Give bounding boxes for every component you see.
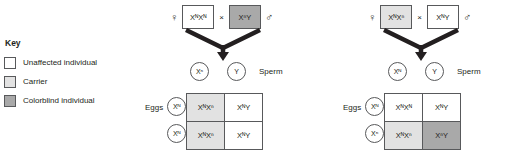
swatch-unaffected-icon: [4, 57, 16, 69]
cross-connector-arrow-icon: [174, 28, 284, 62]
offspring-cell: XᴺXⁿ: [187, 94, 225, 122]
cross-diagram-1: ♀ XᴺXᴺ × XⁿY ♂ Xⁿ Y Sperm Eggs Xᴺ Xᴺ XᴺX…: [140, 0, 320, 159]
key-item-label: Colorblind individual: [23, 96, 95, 105]
punnett-grid: XᴺXᴺ XᴺY XᴺXⁿ XⁿY: [384, 93, 461, 150]
table-row: XᴺXⁿ XᴺY: [187, 122, 263, 150]
sperm-gametes: Xⁿ Y Sperm: [190, 62, 283, 81]
father-genotype-box: XⁿY: [229, 5, 261, 29]
father-genotype-box: XᴺY: [427, 5, 459, 29]
mother-genotype-box: XᴺXᴺ: [182, 5, 214, 29]
eggs-label: Eggs: [145, 93, 163, 112]
eggs-label: Eggs: [343, 93, 361, 112]
male-symbol-icon: ♂: [463, 12, 471, 23]
offspring-cell: XᴺXⁿ: [187, 122, 225, 150]
parent-generation: ♀ XᴺXⁿ × XᴺY ♂: [368, 5, 471, 29]
table-row: XᴺXⁿ XⁿY: [385, 122, 461, 150]
sperm-gamete-circle: Xⁿ: [190, 62, 209, 81]
offspring-cell: XⁿY: [423, 122, 461, 150]
key-item-unaffected: Unaffected individual: [4, 53, 128, 72]
swatch-carrier-icon: [4, 76, 16, 88]
offspring-cell: XᴺXⁿ: [385, 122, 423, 150]
female-symbol-icon: ♀: [170, 12, 178, 23]
egg-gamete-cell: Xᴺ: [365, 93, 384, 120]
key-item-label: Unaffected individual: [23, 58, 97, 67]
sperm-gamete-circle: Y: [425, 62, 444, 81]
egg-gamete-circle: Xᴺ: [365, 97, 384, 116]
swatch-colorblind-icon: [4, 95, 16, 107]
mother-genotype-box: XᴺXⁿ: [380, 5, 412, 29]
egg-gamete-cell: Xᴺ: [167, 120, 186, 147]
cross-diagram-2: ♀ XᴺXⁿ × XᴺY ♂ Xᴺ Y Sperm Eggs Xᴺ Xⁿ XᴺX…: [330, 0, 520, 159]
cross-symbol-icon: ×: [417, 13, 422, 22]
key-item-carrier: Carrier: [4, 72, 128, 91]
egg-gamete-circle: Xᴺ: [167, 124, 186, 143]
sperm-gametes: Xᴺ Y Sperm: [388, 62, 481, 81]
cross-symbol-icon: ×: [219, 13, 224, 22]
offspring-cell: XᴺXᴺ: [385, 94, 423, 122]
parent-generation: ♀ XᴺXᴺ × XⁿY ♂: [170, 5, 273, 29]
key-legend: Key Unaffected individual Carrier Colorb…: [4, 38, 128, 110]
male-symbol-icon: ♂: [265, 12, 273, 23]
egg-gamete-circle: Xⁿ: [365, 124, 384, 143]
egg-gametes: Xᴺ Xᴺ: [167, 93, 186, 147]
key-item-label: Carrier: [23, 77, 47, 86]
offspring-cell: XᴺY: [225, 122, 263, 150]
table-row: XᴺXᴺ XᴺY: [385, 94, 461, 122]
table-row: XᴺXⁿ XᴺY: [187, 94, 263, 122]
female-symbol-icon: ♀: [368, 12, 376, 23]
key-title: Key: [5, 38, 128, 48]
egg-gametes: Xᴺ Xⁿ: [365, 93, 384, 147]
egg-gamete-circle: Xᴺ: [167, 97, 186, 116]
punnett-square-1: Eggs Xᴺ Xᴺ XᴺXⁿ XᴺY XᴺXⁿ XᴺY: [145, 93, 263, 150]
sperm-gamete-circle: Y: [227, 62, 246, 81]
cross-connector-arrow-icon: [372, 28, 482, 62]
punnett-grid: XᴺXⁿ XᴺY XᴺXⁿ XᴺY: [186, 93, 263, 150]
punnett-square-2: Eggs Xᴺ Xⁿ XᴺXᴺ XᴺY XᴺXⁿ XⁿY: [343, 93, 461, 150]
offspring-cell: XᴺY: [423, 94, 461, 122]
sperm-gamete-circle: Xᴺ: [388, 62, 407, 81]
sperm-label: Sperm: [259, 67, 283, 76]
key-item-colorblind: Colorblind individual: [4, 91, 128, 110]
offspring-cell: XᴺY: [225, 94, 263, 122]
egg-gamete-cell: Xⁿ: [365, 120, 384, 147]
egg-gamete-cell: Xᴺ: [167, 93, 186, 120]
sperm-label: Sperm: [457, 67, 481, 76]
